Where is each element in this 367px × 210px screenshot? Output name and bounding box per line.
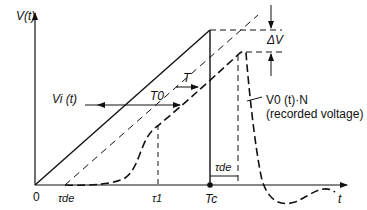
y-axis-label: V(t) [16,10,35,22]
recorded-voltage-curve [65,51,335,204]
input-voltage-label: Vi (t) [52,93,77,105]
tau1-tick-label: τ1 [152,193,162,204]
tc-tick-label: Tc [205,193,217,205]
recorded-voltage-name: V0 (t)·N [266,94,308,106]
input-voltage-ramp [35,30,210,185]
t0-label: T0 [150,90,164,102]
origin-label: 0 [33,191,40,203]
tc-point [207,182,213,188]
v0-leader-line [247,97,262,101]
tau-de-interval-label: τde [215,162,231,173]
delta-v-label: ΔV [267,34,283,46]
recorded-voltage-desc: (recorded voltage) [266,108,363,120]
t-label: T [183,72,190,84]
x-axis-label: t [338,193,341,205]
tau-de-tick-label: τde [58,193,74,204]
